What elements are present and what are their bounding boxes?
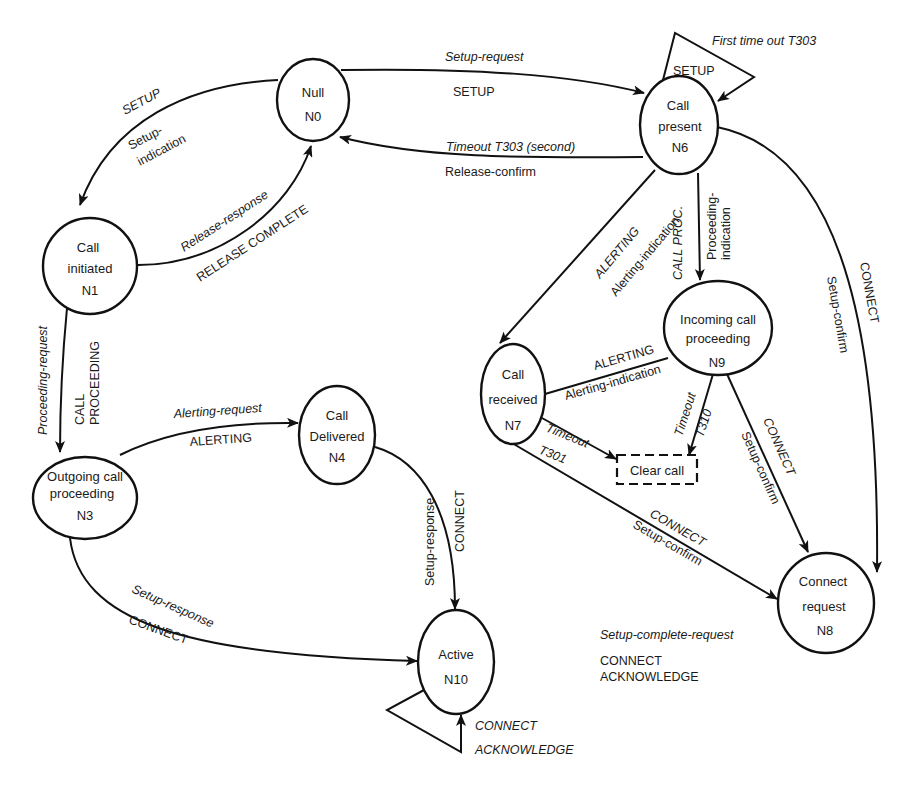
node-label: Incoming call (680, 312, 756, 327)
node-label: Active (438, 647, 473, 662)
edge-label-message: SETUP (453, 85, 495, 99)
node-id: N9 (709, 355, 726, 370)
node-n9-incoming-call-proceeding: Incoming call proceeding N9 (664, 281, 772, 375)
node-label: present (658, 119, 702, 134)
node-n7-call-received: Call received N7 (481, 344, 545, 444)
edge-n9-n8 (727, 374, 808, 552)
node-label: Call (326, 408, 349, 423)
edge-n3-n10 (70, 538, 417, 661)
node-label: Call (77, 240, 100, 255)
node-label: proceeding (50, 486, 114, 501)
clear-call-label: Clear call (630, 463, 684, 478)
clear-call-box: Clear call (617, 455, 697, 484)
edge-label-message: ALERTING (189, 431, 252, 449)
node-id: N6 (672, 140, 689, 155)
edge-label-message: ACKNOWLEDGE (600, 670, 699, 684)
edge-n1-n0 (138, 146, 311, 265)
node-n1-call-initiated: Call initiated N1 (43, 218, 137, 314)
edge-label-primitive: Setup-confirm (824, 275, 851, 354)
node-label: Delivered (310, 429, 365, 444)
node-n6-call-present: Call present N6 (640, 76, 718, 174)
edge-label-message: ACKNOWLEDGE (474, 743, 574, 757)
state-diagram: Null N0 Call initiated N1 Outgoing call … (0, 0, 912, 790)
node-label: Connect (799, 574, 848, 589)
node-label: proceeding (686, 331, 750, 346)
edge-label-primitive: Setup-response (423, 498, 437, 586)
node-label: initiated (68, 261, 113, 276)
node-n4-call-delivered: Call Delivered N4 (299, 386, 375, 484)
edge-label-primitive: Alerting-request (172, 401, 263, 421)
node-n10-active: Active N10 (418, 610, 494, 714)
edge-label-primitive: Setup-complete-request (600, 628, 734, 642)
node-id: N0 (305, 109, 322, 124)
edge-label-primitive: T301 (537, 443, 569, 467)
edge-label-primitive: Timeout T303 (second) (446, 140, 575, 154)
edge-label-primitive: indication (719, 207, 733, 260)
edge-label-message: CONNECT (453, 490, 467, 552)
node-id: N7 (505, 418, 522, 433)
edge-label-message: PROCEEDING (88, 341, 102, 425)
edge-label-message: CONNECT (600, 654, 662, 668)
node-label: request (802, 599, 846, 614)
edge-label-message: CONNECT (857, 261, 882, 325)
node-n3-outgoing-call-proceeding: Outgoing call proceeding N3 (33, 457, 137, 539)
edge-label-message: RELEASE COMPLETE (194, 202, 311, 284)
edge-label-message: CONNECT (475, 719, 538, 733)
node-label: received (488, 392, 537, 407)
node-label: Outgoing call (47, 469, 123, 484)
node-label: Call (667, 98, 690, 113)
node-label: Call (502, 367, 525, 382)
node-id: N1 (82, 283, 99, 298)
edge-n4-n10 (375, 447, 455, 609)
node-id: N10 (444, 672, 468, 687)
edge-label-message: SETUP (673, 64, 715, 78)
node-n8-connect-request: Connect request N8 (778, 553, 874, 653)
edge-n1-n3 (60, 308, 67, 452)
edge-n6-n9 (698, 173, 700, 280)
edge-label-primitive: Proceeding-request (36, 325, 50, 435)
node-n0-null: Null N0 (277, 59, 349, 141)
edge-label-message: CONNECT (127, 613, 190, 647)
edge-label-primitive: Alerting-indication (563, 362, 662, 403)
edge-label-primitive: Proceeding- (705, 193, 719, 260)
edge-n6-n7 (500, 170, 655, 343)
node-label: Null (302, 85, 325, 100)
edge-label-message: CALL (73, 394, 87, 425)
edge-label-message: CALL PROC. (671, 206, 685, 280)
node-id: N4 (329, 450, 346, 465)
node-id: N3 (77, 508, 94, 523)
edge-label-primitive: First time out T303 (712, 34, 816, 48)
node-id: N8 (817, 623, 834, 638)
edge-label-primitive: Setup-request (445, 50, 524, 64)
edge-label-primitive: T310 (693, 407, 715, 438)
edge-label-message: Release-confirm (445, 165, 536, 179)
